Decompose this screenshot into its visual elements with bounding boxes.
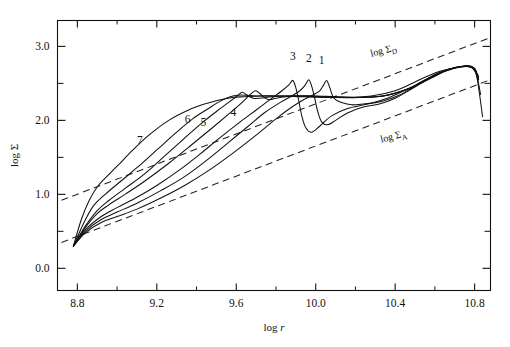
- figure-container: 8.89.29.610.010.410.8 0.01.02.03.0 12345…: [0, 0, 510, 347]
- curve-label-1: 1: [319, 54, 325, 66]
- y-tick-label: 2.0: [35, 114, 50, 126]
- curve-label-7: 7: [137, 134, 143, 146]
- y-tick-label: 0.0: [35, 262, 50, 274]
- x-tick-label: 9.6: [229, 297, 244, 309]
- y-axis-title: log Σ: [8, 144, 20, 167]
- y-tick-label: 1.0: [35, 188, 50, 200]
- curve-label-2: 2: [306, 52, 312, 64]
- x-tick-label: 10.8: [465, 297, 485, 309]
- x-tick-label: 10.0: [306, 297, 326, 309]
- x-tick-label: 9.2: [150, 297, 165, 309]
- x-axis-title: log r: [263, 321, 285, 333]
- curve-label-3: 3: [290, 50, 296, 62]
- y-tick-label: 3.0: [35, 40, 50, 52]
- chart-background: [0, 0, 510, 347]
- curve-label-6: 6: [185, 113, 191, 125]
- x-tick-label: 8.8: [70, 297, 85, 309]
- curve-label-4: 4: [230, 106, 236, 118]
- x-tick-label: 10.4: [385, 297, 405, 309]
- curve-label-5: 5: [201, 116, 207, 128]
- surface-density-chart: 8.89.29.610.010.410.8 0.01.02.03.0 12345…: [0, 0, 510, 347]
